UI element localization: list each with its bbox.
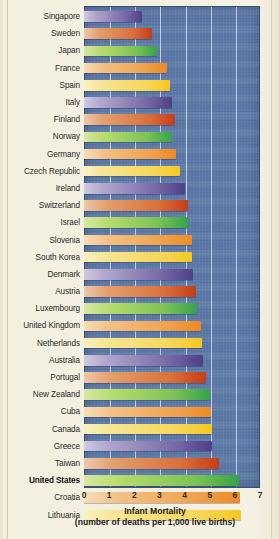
bar-row: Germany <box>0 146 263 163</box>
bar-track <box>84 472 260 489</box>
bar-sweden <box>84 28 152 39</box>
bar-label-south-korea: South Korea <box>0 253 84 262</box>
bar-label-portugal: Portugal <box>0 373 84 382</box>
x-tick-7: 7 <box>258 490 263 500</box>
bar-row: Japan <box>0 42 263 59</box>
bar-row: Singapore <box>0 8 263 25</box>
bar-label-israel: Israel <box>0 218 84 227</box>
bar-track <box>84 25 260 42</box>
bar-japan <box>84 46 157 57</box>
bar-track <box>84 231 260 248</box>
bar-label-netherlands: Netherlands <box>0 339 84 348</box>
bar-track <box>84 128 260 145</box>
x-tick-1: 1 <box>107 490 112 500</box>
bar-slovenia <box>84 235 192 246</box>
bar-greece <box>84 441 212 452</box>
bar-norway <box>84 132 172 143</box>
bar-label-norway: Norway <box>0 132 84 141</box>
bar-track <box>84 352 260 369</box>
bar-row: Slovenia <box>0 231 263 248</box>
bar-label-spain: Spain <box>0 81 84 90</box>
bar-track <box>84 180 260 197</box>
bar-new-zealand <box>84 389 210 400</box>
bar-australia <box>84 355 203 366</box>
bar-row: Australia <box>0 352 263 369</box>
bar-row: United Kingdom <box>0 317 263 334</box>
bar-track <box>84 438 260 455</box>
bar-row: Austria <box>0 283 263 300</box>
bar-luxembourg <box>84 303 197 314</box>
bar-row: Greece <box>0 438 263 455</box>
bar-row: Portugal <box>0 369 263 386</box>
bar-rows: SingaporeSwedenJapanFranceSpainItalyFinl… <box>0 8 263 524</box>
bar-label-singapore: Singapore <box>0 12 84 21</box>
x-tick-2: 2 <box>132 490 137 500</box>
bar-denmark <box>84 269 193 280</box>
x-tick-0: 0 <box>82 490 87 500</box>
bar-row: France <box>0 60 263 77</box>
bar-track <box>84 146 260 163</box>
bar-taiwan <box>84 458 219 469</box>
bar-label-luxembourg: Luxembourg <box>0 304 84 313</box>
bar-track <box>84 77 260 94</box>
bar-track <box>84 317 260 334</box>
bar-track <box>84 163 260 180</box>
x-tick-6: 6 <box>233 490 238 500</box>
bar-ireland <box>84 183 185 194</box>
bar-label-austria: Austria <box>0 287 84 296</box>
bar-track <box>84 300 260 317</box>
bar-row: Sweden <box>0 25 263 42</box>
bar-track <box>84 403 260 420</box>
bar-track <box>84 455 260 472</box>
bar-italy <box>84 97 172 108</box>
bar-track <box>84 266 260 283</box>
bar-label-czech-republic: Czech Republic <box>0 167 84 176</box>
bar-row: Switzerland <box>0 197 263 214</box>
bar-track <box>84 94 260 111</box>
bar-czech-republic <box>84 166 180 177</box>
bar-label-united-kingdom: United Kingdom <box>0 321 84 330</box>
bar-finland <box>84 114 175 125</box>
bar-israel <box>84 217 188 228</box>
bar-label-croatia: Croatia <box>0 493 84 502</box>
bar-france <box>84 63 167 74</box>
x-tick-4: 4 <box>182 490 187 500</box>
bar-united-kingdom <box>84 321 201 332</box>
bar-row: South Korea <box>0 249 263 266</box>
bar-united-states <box>84 475 239 486</box>
bar-label-new-zealand: New Zealand <box>0 390 84 399</box>
x-axis: 01234567 <box>84 489 260 503</box>
bar-row: Netherlands <box>0 335 263 352</box>
bar-track <box>84 386 260 403</box>
bar-south-korea <box>84 252 192 263</box>
bar-label-italy: Italy <box>0 98 84 107</box>
bar-label-sweden: Sweden <box>0 29 84 38</box>
bar-row: Italy <box>0 94 263 111</box>
bar-label-ireland: Ireland <box>0 184 84 193</box>
bar-canada <box>84 424 212 435</box>
chart-titles: Infant Mortality (number of deaths per 1… <box>40 506 270 528</box>
bar-row: Spain <box>0 77 263 94</box>
bar-switzerland <box>84 200 188 211</box>
bar-label-france: France <box>0 64 84 73</box>
bar-label-cuba: Cuba <box>0 407 84 416</box>
bar-track <box>84 8 260 25</box>
bar-label-japan: Japan <box>0 46 84 55</box>
bar-germany <box>84 149 176 160</box>
bar-row: United States <box>0 472 263 489</box>
bar-row: Ireland <box>0 180 263 197</box>
bar-track <box>84 214 260 231</box>
bar-label-germany: Germany <box>0 150 84 159</box>
bar-track <box>84 111 260 128</box>
bar-row: Cuba <box>0 403 263 420</box>
bar-row: Finland <box>0 111 263 128</box>
bar-row: Denmark <box>0 266 263 283</box>
bar-singapore <box>84 11 142 22</box>
bar-spain <box>84 80 170 91</box>
bar-track <box>84 249 260 266</box>
bar-track <box>84 421 260 438</box>
bar-austria <box>84 286 196 297</box>
bar-label-switzerland: Switzerland <box>0 201 84 210</box>
bar-cuba <box>84 407 211 418</box>
bar-label-canada: Canada <box>0 425 84 434</box>
